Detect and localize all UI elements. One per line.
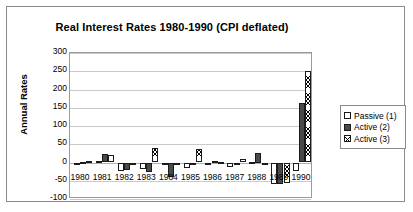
chart-frame: Real Interest Rates 1980-1990 (CPI defla… [6,6,405,202]
bar [249,162,255,164]
bar [118,163,124,171]
y-axis-tick-label: 300 [37,47,67,56]
legend-item[interactable]: Active (3) [344,134,402,144]
legend-swatch-icon [344,112,351,119]
y-axis-tick-label: 100 [37,120,67,129]
bar [190,163,196,165]
legend-label: Passive (1) [354,111,397,121]
chart-title: Real Interest Rates 1980-1990 (CPI defla… [7,21,337,33]
bar [293,163,299,171]
chart-legend: Passive (1)Active (2)Active (3) [340,105,406,149]
bar [212,161,218,163]
bar [80,162,86,164]
bar [305,71,311,163]
legend-swatch-icon [344,124,351,131]
x-axis-tick-label: 1990 [281,172,321,182]
bar [255,153,261,162]
gridline [70,199,311,200]
bar [102,154,108,162]
bar [162,163,168,165]
y-axis-tick-label: -100 [37,193,67,202]
y-axis-tick-label: 200 [37,84,67,93]
y-axis-tick-label: 50 [37,138,67,147]
y-axis-title: Annual Rates [18,67,29,143]
y-axis-tick-label: 0 [37,157,67,166]
y-axis-tick-label: 250 [37,65,67,74]
bar [124,163,130,170]
bar [96,161,102,163]
legend-label: Active (3) [354,134,390,144]
bar [205,163,211,166]
bar [74,163,80,165]
bar [234,163,240,165]
legend-label: Active (2) [354,122,390,132]
legend-item[interactable]: Active (2) [344,122,402,132]
bar [140,163,146,170]
legend-item[interactable]: Passive (1) [344,111,402,121]
bar [227,163,233,167]
bar [146,163,152,173]
bar [299,103,305,162]
y-axis-tick-label: 150 [37,102,67,111]
bar [184,163,190,168]
x-axis-tick-labels: 1980198119821983198419851986198719881989… [69,172,312,184]
legend-swatch-icon [344,135,351,142]
